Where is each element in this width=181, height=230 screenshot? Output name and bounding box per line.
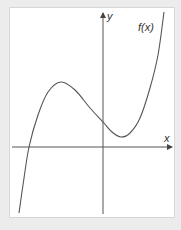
x-axis-label: x: [163, 132, 170, 144]
function-label: f(x): [138, 21, 154, 33]
function-plot: x y f(x): [0, 0, 181, 230]
y-axis-label: y: [106, 10, 114, 22]
function-curve: [19, 12, 164, 213]
